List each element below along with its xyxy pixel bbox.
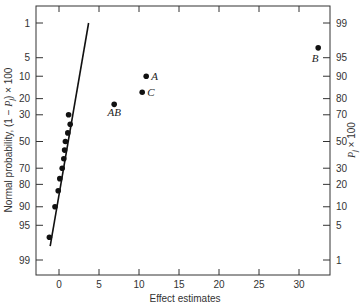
- data-point: [139, 89, 145, 95]
- left-y-tick-label: 30: [19, 109, 31, 120]
- data-point: [65, 130, 71, 136]
- right-y-tick-label: 30: [336, 163, 348, 174]
- right-y-tick-label: 5: [336, 220, 342, 231]
- x-tick-label: 5: [96, 279, 102, 290]
- left-y-tick-label: 20: [19, 93, 31, 104]
- x-tick-label: 20: [213, 279, 225, 290]
- right-y-tick-label: 10: [336, 201, 348, 212]
- x-tick-label: 30: [293, 279, 305, 290]
- right-y-tick-label: 90: [336, 71, 348, 82]
- data-point: [47, 235, 53, 241]
- right-y-tick-label: 80: [336, 93, 348, 104]
- left-y-tick-label: 10: [19, 71, 31, 82]
- data-point: [63, 139, 69, 145]
- data-point: [52, 204, 58, 210]
- data-point: [55, 188, 61, 194]
- x-tick-label: 10: [133, 279, 145, 290]
- data-point: [67, 121, 73, 127]
- x-tick-label: 0: [56, 279, 62, 290]
- point-label: C: [147, 86, 155, 98]
- left-y-tick-label: 5: [24, 52, 30, 63]
- left-y-tick-label: 95: [19, 220, 31, 231]
- x-axis-ticks: 051015202530: [56, 6, 305, 290]
- plot-frame: [36, 6, 330, 275]
- data-point: [143, 73, 149, 79]
- x-tick-label: 15: [173, 279, 185, 290]
- x-tick-label: 25: [253, 279, 265, 290]
- right-y-axis-ticks: 99959080705030201051: [323, 18, 348, 266]
- left-y-axis-title: Normal probability, (1 − Pj) × 100: [3, 67, 16, 212]
- right-y-tick-label: 20: [336, 179, 348, 190]
- point-label: B: [312, 52, 319, 64]
- data-point: [61, 156, 67, 162]
- data-point: [57, 176, 63, 182]
- right-y-tick-label: 95: [336, 52, 348, 63]
- right-y-tick-label: 99: [336, 18, 348, 29]
- right-y-axis-title: Pj × 100: [346, 122, 359, 159]
- x-axis-title: Effect estimates: [150, 293, 221, 304]
- left-y-tick-label: 70: [19, 163, 31, 174]
- data-points: ABCAB: [47, 45, 321, 240]
- data-point: [59, 165, 65, 171]
- right-y-tick-label: 70: [336, 109, 348, 120]
- left-y-tick-label: 50: [19, 136, 31, 147]
- point-label: A: [150, 70, 158, 82]
- left-y-tick-label: 99: [19, 255, 31, 266]
- left-y-tick-label: 80: [19, 179, 31, 190]
- data-point: [62, 147, 68, 153]
- point-label: AB: [106, 106, 121, 118]
- left-y-axis-ticks: 15102030507080909599: [19, 18, 43, 266]
- data-point: [66, 112, 72, 118]
- data-point: [315, 45, 321, 51]
- normal-probability-plot: 051015202530 15102030507080909599 999590…: [0, 0, 362, 308]
- right-y-tick-label: 1: [336, 255, 342, 266]
- left-y-tick-label: 1: [24, 18, 30, 29]
- left-y-tick-label: 90: [19, 201, 31, 212]
